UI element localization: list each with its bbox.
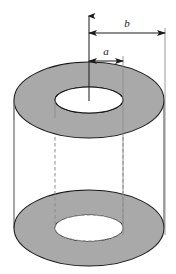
figure-container: b a xyxy=(0,0,176,274)
dimension-label-b: b xyxy=(124,17,130,29)
bottom-annulus-face xyxy=(14,190,164,266)
dimension-inner-radius-a: a xyxy=(89,45,123,61)
dimension-outer-radius-b: b xyxy=(89,17,165,33)
dimension-label-a: a xyxy=(103,45,109,57)
annular-cylinder-figure: b a xyxy=(0,0,176,274)
bottom-inner-hole-hidden-edge xyxy=(55,215,123,241)
